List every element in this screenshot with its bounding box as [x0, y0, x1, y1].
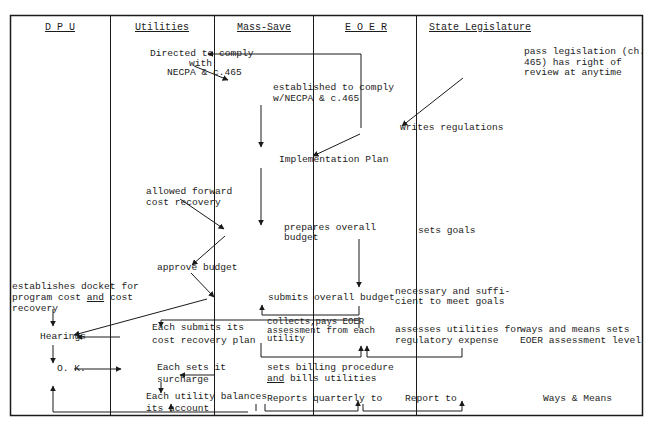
node-hearings: Hearings — [40, 331, 86, 342]
node-report-to: Report to — [405, 393, 457, 404]
node-ok: O. K. — [57, 363, 86, 374]
node-allowed-forward-line2: cost recovery — [146, 197, 221, 208]
node-establishes-docket-line1: establishes docket for — [12, 281, 139, 292]
column-header-utilities: Utilities — [120, 22, 204, 33]
node-submits-overall-budget: submits overall budget — [268, 292, 395, 303]
node-directed-to-comply-line3: NECPA & c.465 — [167, 67, 242, 78]
node-implementation-plan: Implementation Plan — [279, 154, 388, 165]
node-writes-regulations: writes regulations — [400, 122, 504, 133]
node-collects-line3: utility — [267, 335, 305, 344]
node-established-line2: w/NECPA & c.465 — [273, 93, 359, 104]
node-ways-and-means: Ways & Means — [543, 393, 612, 404]
node-each-sets-line1: Each sets it — [157, 362, 226, 373]
node-establishes-docket-line3: recovery — [12, 303, 58, 314]
column-header-mass-save: Mass-Save — [224, 22, 304, 33]
node-each-submits-line1: Each submits its — [152, 322, 244, 333]
node-sets-billing-line2: and bills utilities — [267, 373, 376, 384]
node-each-utility-line2: its account — [146, 403, 209, 414]
node-assesses-line1: assesses utilities for — [395, 324, 522, 335]
node-sets-billing-line1: sets billing procedure — [267, 362, 394, 373]
column-header-eoer: E O E R — [326, 22, 406, 33]
node-each-sets-line2: surcharge — [157, 374, 209, 385]
node-pass-legislation-line3: review at anytime — [524, 67, 622, 78]
node-allowed-forward-line1: allowed forward — [146, 186, 232, 197]
node-established-line1: established to comply — [273, 82, 394, 93]
node-pass-legislation-line1: pass legislation (ch. — [524, 46, 645, 57]
node-prepares-budget-line2: budget — [284, 232, 319, 243]
node-each-submits-line2: cost recovery plan — [152, 335, 256, 346]
node-approve-budget: approve budget — [157, 262, 238, 273]
node-necessary-line2: cient to meet goals — [395, 296, 504, 307]
node-ways-means-sets-line1: ways and means sets — [520, 324, 629, 335]
node-sets-goals: sets goals — [418, 225, 476, 236]
node-reports-quarterly: Reports quarterly to — [267, 393, 382, 404]
node-each-utility-line1: Each utility balances — [146, 391, 267, 402]
column-header-state-legislature: State Legislature — [418, 22, 542, 33]
flow-diagram: D P U Utilities Mass-Save E O E R State … — [0, 0, 650, 424]
node-ways-means-sets-line2: EOER assessment level — [520, 335, 641, 346]
node-establishes-docket-line2: program cost and cost — [12, 292, 133, 303]
node-assesses-line2: regulatory expense — [395, 335, 499, 346]
column-header-dpu: D P U — [30, 22, 90, 33]
